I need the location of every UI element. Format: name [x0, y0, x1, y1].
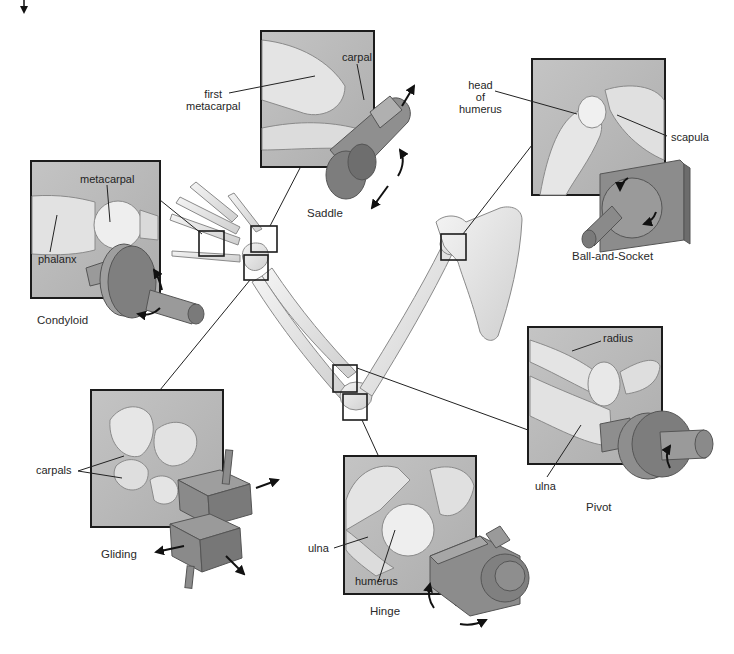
label-pivot-ulna: ulna: [535, 480, 556, 492]
label-metacarpal: metacarpal: [80, 173, 134, 185]
arm-skeleton: [170, 182, 522, 410]
pivot-model: [600, 411, 713, 479]
caption-condyloid: Condyloid: [37, 314, 88, 326]
pivot-panel: [528, 327, 713, 479]
caption-hinge: Hinge: [370, 605, 400, 617]
label-scapula: scapula: [671, 131, 709, 143]
hinge-panel: [334, 456, 529, 625]
label-hinge-ulna: ulna: [308, 542, 329, 554]
corner-arrow-icon: [20, 0, 28, 14]
label-carpals: carpals: [36, 464, 71, 476]
condyloid-panel: [31, 161, 204, 324]
saddle-panel: [229, 31, 414, 208]
label-radius: radius: [603, 332, 633, 344]
forearm-bones: [252, 268, 356, 398]
label-carpal: carpal: [342, 51, 372, 63]
caption-ball-and-socket: Ball-and-Socket: [572, 250, 653, 262]
caption-pivot: Pivot: [586, 501, 612, 513]
label-hinge-humerus: humerus: [355, 575, 398, 587]
scapula-bone: [436, 207, 522, 340]
humerus-bone: [360, 246, 454, 396]
label-phalanx: phalanx: [38, 253, 77, 265]
caption-saddle: Saddle: [307, 207, 343, 219]
caption-gliding: Gliding: [101, 548, 137, 560]
label-head-of-humerus: head of humerus: [459, 79, 502, 115]
label-first-metacarpal: first metacarpal: [186, 88, 240, 112]
